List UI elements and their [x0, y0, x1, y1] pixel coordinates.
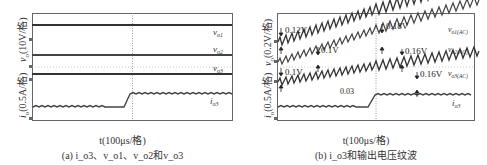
annotation-vo1-after: 0.18V [386, 21, 409, 31]
y-axis-label-voltage: vo(10V/格) [14, 17, 31, 62]
label-io3: io3 [452, 98, 461, 109]
y-axis-label-current: io(0.5A/格) [259, 73, 276, 118]
y-axis-label-voltage: vo(0.2V/格) [259, 19, 276, 66]
label-vo2: vo2 [213, 44, 223, 55]
annotation-vo2-before: 0.1V [321, 45, 339, 55]
figure-panel-b: 0.12V 0.18V 0.1V 0.16V 0.1V 0.16V 0.03 v… [245, 0, 487, 165]
x-axis-label: t(100μs/格) [245, 132, 487, 147]
label-vo3: vo3 [213, 63, 223, 74]
label-vo3-ac: vo3(AC) [448, 69, 468, 80]
caption-b: (b) i_o3和输出电压纹波 [245, 147, 487, 162]
label-vo1-ac: vo1(AC) [448, 25, 468, 36]
label-io3: io3 [210, 96, 219, 107]
annotation-vo3-after: 0.16V [420, 69, 443, 79]
annotation-vo3-before: 0.1V [285, 67, 303, 77]
annotation-vo1-before: 0.12V [285, 25, 308, 35]
caption-a: (a) i_o3、v_o1、v_o2和v_o3 [0, 147, 245, 162]
y-axis-label-current: io(0.5A/格) [14, 73, 31, 118]
x-axis-label: t(100μs/格) [0, 132, 245, 147]
trace-vo1-ac [278, 0, 479, 45]
trace-io3 [278, 94, 471, 108]
annotation-vo2-after: 0.16V [405, 46, 428, 56]
label-vo1: vo1 [213, 27, 223, 38]
figure-panel-a: vo1 vo2 vo3 io3 vo(10V/格) io(0.5A/格) t(1… [0, 0, 245, 165]
trace-io3 [33, 93, 232, 108]
annotation-io3-step: 0.03 [340, 87, 354, 96]
label-vo2-ac: vo2(AC) [448, 45, 468, 56]
